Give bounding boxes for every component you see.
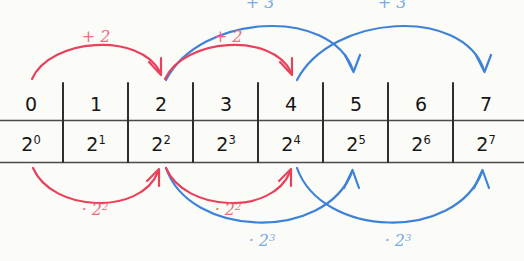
label-top-blue-1: + 3 (246, 0, 275, 12)
table-grid (0, 83, 524, 163)
label-top-red-1: + 2 (82, 27, 111, 46)
cell-power-7: 27 (476, 133, 495, 155)
cell-exponent-7: 7 (480, 93, 492, 115)
cell-power-6: 26 (411, 133, 430, 155)
arrow-top-red-2 (165, 45, 292, 79)
cell-power-0: 20 (21, 133, 40, 155)
figure-svg: 0 1 2 3 4 5 6 7 20 21 22 23 24 25 26 27 (0, 0, 524, 261)
label-bottom-red-1: · 22 (82, 200, 109, 219)
cell-power-4: 24 (281, 133, 300, 155)
cell-exponent-1: 1 (90, 93, 102, 115)
cell-exponent-0: 0 (25, 93, 37, 115)
arrow-bottom-blue-2 (297, 168, 489, 223)
cell-exponent-4: 4 (285, 93, 297, 115)
label-top-blue-2: + 3 (378, 0, 407, 12)
cell-exponent-5: 5 (350, 93, 362, 115)
arrow-top-red-1 (32, 45, 161, 79)
cell-power-2: 22 (151, 133, 170, 155)
cell-power-3: 23 (216, 133, 235, 155)
cell-power-5: 25 (346, 133, 365, 155)
cell-exponent-6: 6 (415, 93, 427, 115)
label-bottom-blue-2: · 23 (385, 231, 412, 250)
cell-exponent-2: 2 (155, 93, 167, 115)
cell-power-1: 21 (86, 133, 105, 155)
arrow-bottom-red-2 (166, 168, 291, 203)
cell-exponent-3: 3 (220, 93, 232, 115)
arrow-top-blue-2 (297, 26, 491, 80)
label-bottom-blue-1: · 23 (249, 231, 276, 250)
label-bottom-red-2: · 22 (215, 200, 242, 219)
label-top-red-2: + 2 (214, 27, 243, 46)
arrow-bottom-red-1 (33, 168, 159, 203)
figure-canvas: 0 1 2 3 4 5 6 7 20 21 22 23 24 25 26 27 (0, 0, 524, 261)
